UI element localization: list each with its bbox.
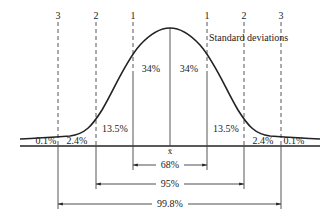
- region-label-tail-right: 0.1%: [284, 135, 305, 146]
- normal-distribution-diagram: 3 2 1 1 2 3 Standard deviations 34% 34% …: [0, 0, 334, 221]
- region-label-2-right: 2.4%: [253, 135, 274, 146]
- region-label-34-left: 34%: [142, 63, 160, 74]
- sd-label-right-1: 1: [205, 10, 210, 21]
- span-label-95: 95%: [161, 178, 179, 189]
- sd-label-right-3: 3: [279, 10, 284, 21]
- span-68: 68%: [133, 159, 207, 170]
- span-label-99-8: 99.8%: [157, 198, 183, 209]
- sd-label-left-3: 3: [56, 10, 61, 21]
- region-label-tail-left: 0.1%: [36, 135, 57, 146]
- region-label-2-left: 2.4%: [67, 135, 88, 146]
- span-label-68: 68%: [161, 159, 179, 170]
- region-label-34-right: 34%: [180, 63, 198, 74]
- mean-label: x̄: [168, 146, 173, 156]
- sd-label-left-1: 1: [131, 10, 136, 21]
- sd-label-left-2: 2: [94, 10, 99, 21]
- region-label-13-right: 13.5%: [213, 123, 239, 134]
- sd-label-right-2: 2: [242, 10, 247, 21]
- region-label-13-left: 13.5%: [102, 123, 128, 134]
- annotation-standard-deviations: Standard deviations: [209, 32, 288, 43]
- span-95: 95%: [96, 178, 244, 189]
- span-99-8: 99.8%: [58, 198, 281, 209]
